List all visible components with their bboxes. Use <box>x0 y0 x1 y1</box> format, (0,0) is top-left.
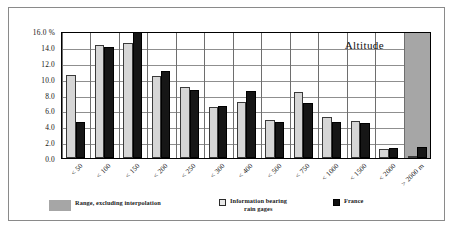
bar-france <box>161 71 170 158</box>
legend-swatch-rain-gages <box>219 199 226 206</box>
bar-group <box>204 33 232 158</box>
y-axis-tick-label: 14.0 <box>41 43 55 52</box>
category-separator <box>119 33 120 158</box>
legend-item-france: France <box>333 197 363 206</box>
bar-rain-gages <box>123 43 132 158</box>
bar-group <box>261 33 289 158</box>
bar-group <box>404 33 431 158</box>
x-axis-tick-label: < 500 <box>266 162 284 180</box>
y-axis-tick-label: 6.0 <box>45 107 55 116</box>
bar-group <box>119 33 147 158</box>
bar-france <box>389 148 398 158</box>
bar-rain-gages <box>408 156 417 158</box>
bar-france <box>360 123 369 158</box>
y-axis-tick-label: 16.0 % <box>33 28 55 37</box>
y-axis-tick-label: 12.0 <box>41 59 55 68</box>
bar-france <box>133 32 142 158</box>
y-axis-tick-label: 4.0 <box>45 123 55 132</box>
category-separator <box>233 33 234 158</box>
category-separator <box>90 33 91 158</box>
bar-group <box>347 33 375 158</box>
legend-swatch-range <box>49 200 71 211</box>
bar-rain-gages <box>209 107 218 158</box>
legend-item-range: Range, excluding interpolation <box>49 199 161 211</box>
category-separator <box>318 33 319 158</box>
category-separator <box>204 33 205 158</box>
category-separator <box>290 33 291 158</box>
bar-group <box>147 33 175 158</box>
legend-label-france: France <box>344 197 363 205</box>
bar-rain-gages <box>322 117 331 158</box>
category-separator <box>375 33 376 158</box>
legend-swatch-france <box>333 199 340 206</box>
bar-rain-gages <box>237 102 246 158</box>
y-axis-tick-label: 0.0 <box>45 155 55 164</box>
bar-rain-gages <box>379 149 388 158</box>
x-axis-tick-label: < 250 <box>180 162 198 180</box>
x-axis-tick-label: < 2000 <box>377 162 397 182</box>
bar-france <box>246 91 255 158</box>
bar-france <box>218 106 227 158</box>
x-axis: < 50< 100< 150< 200< 250< 300< 400< 500<… <box>61 160 431 198</box>
x-axis-tick-label: < 150 <box>123 162 141 180</box>
x-axis-tick-label: < 750 <box>294 162 312 180</box>
legend-label-rain-gages-line1: Information bearing <box>230 197 287 204</box>
bar-rain-gages <box>351 121 360 158</box>
category-separator <box>147 33 148 158</box>
bar-france <box>303 103 312 158</box>
bar-group <box>176 33 204 158</box>
bar-group <box>62 33 90 158</box>
bar-rain-gages <box>294 92 303 158</box>
bar-rain-gages <box>66 75 75 158</box>
chart-legend: Range, excluding interpolation Informati… <box>23 195 431 217</box>
bar-france <box>190 90 199 158</box>
bar-group <box>375 33 403 158</box>
x-axis-tick-label: < 100 <box>95 162 113 180</box>
bar-france <box>332 122 341 158</box>
bar-france <box>104 47 113 158</box>
bar-rain-gages <box>152 76 161 158</box>
y-axis: 16.0 %14.012.010.08.06.04.02.00.0 <box>9 32 59 159</box>
category-separator <box>62 33 63 158</box>
bar-rain-gages <box>265 120 274 158</box>
x-axis-tick-label: > 2000 m <box>400 162 426 188</box>
x-axis-tick-label: < 200 <box>152 162 170 180</box>
legend-label-rain-gages: Information bearingrain gages <box>230 197 287 213</box>
y-axis-tick-label: 10.0 <box>41 75 55 84</box>
bar-group <box>233 33 261 158</box>
category-separator <box>347 33 348 158</box>
bar-group <box>290 33 318 158</box>
bar-groups <box>62 33 430 158</box>
category-separator <box>261 33 262 158</box>
category-separator <box>176 33 177 158</box>
y-axis-tick-label: 8.0 <box>45 91 55 100</box>
x-axis-tick-label: < 50 <box>69 162 84 177</box>
y-axis-tick-label: 2.0 <box>45 139 55 148</box>
bar-france <box>417 147 426 158</box>
legend-label-rain-gages-line2: rain gages <box>230 205 287 213</box>
bar-group <box>90 33 118 158</box>
x-axis-tick-label: < 1500 <box>348 162 368 182</box>
x-axis-tick-label: < 300 <box>209 162 227 180</box>
legend-label-range: Range, excluding interpolation <box>75 199 161 207</box>
bar-group <box>318 33 346 158</box>
plot-area <box>61 32 431 159</box>
legend-item-rain-gages: Information bearingrain gages <box>219 197 287 213</box>
chart-title: Altitude <box>345 39 384 51</box>
bar-rain-gages <box>95 45 104 158</box>
bar-france <box>275 122 284 158</box>
chart-figure-frame: 16.0 %14.012.010.08.06.04.02.00.0 Altitu… <box>8 7 445 221</box>
bar-france <box>76 122 85 159</box>
category-separator <box>404 33 405 158</box>
x-axis-tick-label: < 1000 <box>320 162 340 182</box>
x-axis-tick-label: < 400 <box>237 162 255 180</box>
bar-rain-gages <box>180 87 189 158</box>
